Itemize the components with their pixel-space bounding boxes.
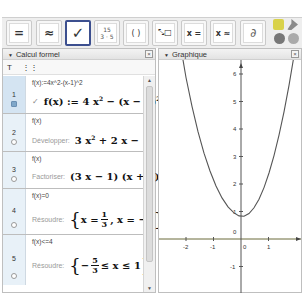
cas-input[interactable]: f(x) [32,117,41,124]
solve-button[interactable]: x = [181,20,207,46]
substitute-button[interactable]: ⤡□ [152,20,178,46]
cas-scrollbar[interactable]: ▲ ▼ [143,76,155,292]
check-icon: ✓ [32,97,39,106]
scroll-down-icon[interactable]: ▼ [144,285,155,291]
window-controls [273,19,301,47]
cas-output: Développer:3 x2 + 2 x − 1 [32,134,149,146]
close-cas-button[interactable]: × [145,50,153,58]
graphics-panel: ▼Graphique × -2 -1 0 1 0 6 5 4 [158,48,302,293]
cas-toolbar: = ≈ ✓ 153 · 5 ( ) ⤡□ x = x ≈ ∂ ⌫ [2,17,302,48]
svg-text:-1: -1 [230,264,236,270]
collapse-icon[interactable]: ▼ [8,52,13,58]
row-toggle[interactable] [11,222,17,228]
row-toggle[interactable] [11,176,17,182]
scroll-thumb[interactable] [146,86,153,262]
function-curve[interactable] [181,60,293,216]
svg-text:-1: -1 [210,244,216,250]
cas-row-3[interactable]: 3 f(x) Factoriser:(3 x − 1) (x + 1) [3,152,143,189]
cas-panel: ▼Calcul formel × T ⋮⋮ 1 f(x):=4x^2-(x-1)… [2,48,156,293]
derivative-button[interactable]: ∂ [240,20,266,46]
row-toggle[interactable] [11,139,17,145]
svg-text:-2: -2 [183,244,189,250]
svg-text:6: 6 [233,71,237,77]
close-graphics-button[interactable]: × [291,50,299,58]
cas-output: Factoriser:(3 x − 1) (x + 1) [32,171,159,182]
svg-text:3: 3 [233,154,237,160]
row-toggle[interactable] [11,273,17,279]
help-icon[interactable] [274,33,285,44]
cas-panel-header: ▼Calcul formel × [3,49,155,60]
evaluate-button[interactable]: = [6,20,32,46]
numeric-button[interactable]: ≈ [36,20,62,46]
svg-text:5: 5 [233,99,237,105]
graph-canvas[interactable]: -2 -1 0 1 0 6 5 4 3 2 1 -1 [159,60,301,293]
layout-button[interactable]: ⋮⋮ [22,63,38,72]
scroll-up-icon[interactable]: ▲ [144,77,155,83]
svg-text:0: 0 [233,229,237,235]
properties-icon[interactable] [273,19,284,30]
cas-style-bar: T ⋮⋮ [3,60,155,75]
factor-number-button[interactable]: 153 · 5 [94,20,120,46]
cas-row-5[interactable]: 5 f(x)<=4 Résoudre: { − 53 ≤ x ≤ 1 } [3,235,143,285]
svg-text:2: 2 [233,181,237,187]
text-style-button[interactable]: T [7,63,12,72]
settings-icon[interactable] [288,33,299,44]
keep-input-button[interactable]: ✓ [65,20,91,46]
redo-icon[interactable] [287,19,298,30]
svg-text:0: 0 [243,244,247,250]
cas-input[interactable]: f(x) [32,155,41,162]
cas-output: ✓f(x) := 4 x2 − (x − 1)2 [32,95,160,107]
cas-input[interactable]: f(x)=0 [32,192,49,199]
cas-row-1[interactable]: 1 f(x):=4x^2-(x-1)^2 ✓f(x) := 4 x2 − (x … [3,76,143,114]
graphics-panel-header: ▼Graphique × [159,49,301,60]
cas-row-2[interactable]: 2 f(x) Développer:3 x2 + 2 x − 1 [3,114,143,152]
cas-input[interactable]: f(x):=4x^2-(x-1)^2 [32,79,83,86]
solve-numerically-button[interactable]: x ≈ [210,20,236,46]
cas-output: Résoudre: { − 53 ≤ x ≤ 1 } [32,255,152,276]
collapse-icon[interactable]: ▼ [164,52,169,58]
svg-text:4: 4 [233,126,237,132]
svg-text:1: 1 [267,244,271,250]
cas-row-4[interactable]: 4 f(x)=0 Résoudre: { x = 13 , x = −1 } [3,189,143,235]
cas-rows: 1 f(x):=4x^2-(x-1)^2 ✓f(x) := 4 x2 − (x … [3,76,143,292]
row-toggle[interactable] [11,101,17,107]
cas-input[interactable]: f(x)<=4 [32,238,53,245]
expand-button[interactable]: ( ) [123,20,149,46]
